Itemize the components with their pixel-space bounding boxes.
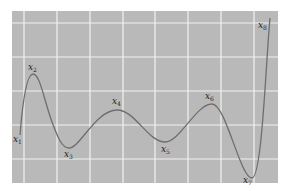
plot-background (12, 11, 278, 183)
function-curve-figure: x1x2x3x4x5x6x7x8 (0, 0, 290, 191)
